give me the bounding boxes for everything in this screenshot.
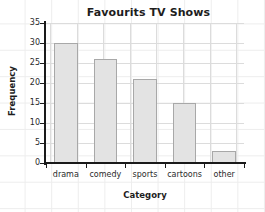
x-axis-tick xyxy=(46,164,47,168)
y-axis-tick-label: 0 xyxy=(14,158,40,167)
x-axis-tick xyxy=(204,164,205,168)
y-axis-tick-label: 10 xyxy=(14,118,40,127)
y-axis-tick xyxy=(40,163,45,164)
y-axis-tick xyxy=(40,23,45,24)
x-axis-category-label: comedy xyxy=(86,170,126,179)
x-axis-tick xyxy=(244,164,245,168)
y-axis-tick xyxy=(40,143,45,144)
y-axis-tick xyxy=(40,103,45,104)
y-axis-tick-label: 25 xyxy=(14,58,40,67)
gridline-vertical xyxy=(210,23,211,163)
bar xyxy=(54,43,78,163)
plot-area xyxy=(46,23,244,163)
x-axis-category-labels: dramacomedysportscartoonsother xyxy=(46,170,244,182)
bar xyxy=(173,103,197,163)
chart-title: Favourits TV Shows xyxy=(46,6,251,19)
y-axis-tick xyxy=(40,123,45,124)
y-axis-tick xyxy=(40,63,45,64)
chart-page: Favourits TV Shows Frequency Category 05… xyxy=(0,0,265,212)
x-axis-category-label: drama xyxy=(46,170,86,179)
gridline-vertical xyxy=(130,23,131,163)
x-axis-line xyxy=(44,162,246,164)
x-axis-category-label: sports xyxy=(125,170,165,179)
x-axis-tick xyxy=(125,164,126,168)
y-axis-tick-label: 15 xyxy=(14,98,40,107)
y-axis-tick-labels: 05101520253035 xyxy=(10,0,40,212)
gridline-vertical xyxy=(50,23,51,163)
x-axis-title: Category xyxy=(46,190,244,200)
x-axis-category-label: other xyxy=(204,170,244,179)
y-axis-tick-label: 20 xyxy=(14,78,40,87)
x-axis-tick xyxy=(165,164,166,168)
y-axis-tick xyxy=(40,83,45,84)
gridline-vertical xyxy=(236,23,237,163)
x-axis-tick xyxy=(86,164,87,168)
y-axis-tick-label: 30 xyxy=(14,38,40,47)
bar xyxy=(133,79,157,163)
y-axis-tick-label: 35 xyxy=(14,18,40,27)
bar xyxy=(94,59,118,163)
y-axis-tick xyxy=(40,43,45,44)
x-axis-category-label: cartoons xyxy=(165,170,205,179)
y-axis-tick-label: 5 xyxy=(14,138,40,147)
